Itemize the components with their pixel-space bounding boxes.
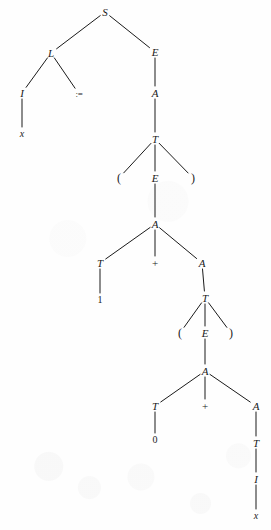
tree-node-n1: L: [48, 48, 54, 59]
tree-node-n4: :=: [76, 90, 83, 99]
tree-node-n10: ): [191, 172, 195, 184]
tree-node-n2: E: [152, 47, 159, 58]
tree-node-n19: ): [229, 327, 233, 339]
tree-edge: [203, 269, 205, 291]
tree-node-n23: A: [253, 401, 260, 412]
tree-node-n9: E: [152, 173, 159, 184]
tree-node-n0: S: [102, 7, 108, 18]
tree-node-n7: T: [152, 134, 158, 145]
tree-node-n20: A: [202, 366, 209, 377]
tree-node-n24: 0: [153, 435, 158, 445]
tree-edge: [161, 374, 200, 402]
tree-node-n3: I: [20, 88, 24, 99]
tree-node-n26: I: [254, 474, 258, 485]
tree-node-n25: T: [253, 438, 259, 449]
parse-tree-figure: SLEI:=xAT(E)AT+A1T(E)AT+A0TIx: [0, 0, 271, 530]
tree-node-n16: T: [202, 293, 208, 304]
tree-node-n11: A: [152, 219, 159, 230]
tree-edge: [184, 303, 201, 327]
tree-node-n6: A: [152, 88, 159, 99]
tree-edge: [210, 374, 250, 402]
tree-node-n27: x: [254, 511, 258, 521]
tree-node-n17: (: [178, 327, 182, 339]
tree-node-n13: +: [152, 258, 158, 269]
tree-edge-layer: [0, 0, 271, 530]
tree-edge: [54, 58, 75, 88]
tree-edge: [160, 228, 197, 259]
tree-node-n18: E: [202, 328, 209, 339]
tree-node-n22: +: [202, 401, 208, 412]
tree-node-n5: x: [20, 129, 24, 139]
tree-node-n12: T: [97, 258, 103, 269]
tree-edge: [57, 16, 101, 49]
tree-edge: [26, 58, 47, 87]
tree-edge: [159, 143, 188, 173]
tree-edge: [209, 303, 227, 328]
tree-edge: [106, 227, 150, 258]
tree-node-n15: 1: [98, 295, 103, 305]
tree-node-n21: T: [152, 401, 158, 412]
tree-node-n14: A: [199, 258, 206, 269]
tree-edge: [124, 143, 151, 172]
tree-edge: [110, 16, 150, 48]
tree-node-n8: (: [117, 172, 121, 184]
